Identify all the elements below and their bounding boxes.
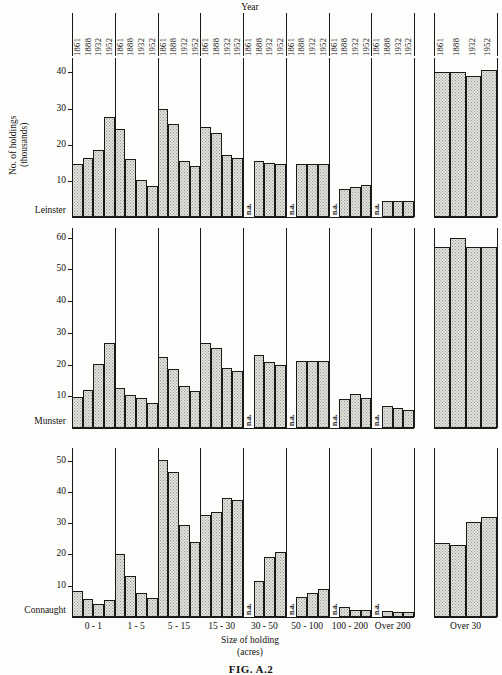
bar — [222, 498, 233, 617]
bar — [222, 368, 233, 428]
bar — [200, 515, 211, 617]
year-label: 1952 — [404, 14, 413, 56]
year-label: 1861 — [330, 14, 339, 56]
category-label-over30: Over 30 — [422, 621, 502, 631]
y-tick-label-munster-40: 40 — [42, 295, 66, 305]
bar — [104, 600, 115, 617]
bar — [83, 390, 94, 428]
bar — [147, 186, 158, 217]
year-label: 1888 — [84, 14, 93, 56]
bar-over30 — [434, 543, 450, 617]
bar — [147, 598, 158, 617]
y-tick-label-munster-30: 30 — [42, 327, 66, 337]
y-tick-label-connaught-40: 40 — [42, 486, 66, 496]
na-label: n.a. — [244, 591, 253, 615]
year-label: 1952 — [362, 14, 371, 56]
bar — [307, 593, 318, 617]
main-right-edge-0 — [414, 58, 415, 217]
bar — [264, 163, 275, 217]
bar — [275, 164, 286, 217]
bar — [72, 164, 83, 217]
region-label-leinster: Leinster — [6, 205, 66, 215]
year-label: 1888 — [126, 14, 135, 56]
category-label-7: Over 200 — [361, 621, 424, 631]
y-tick-label-connaught-30: 30 — [42, 517, 66, 527]
y-tick-label-leinster-10: 10 — [42, 175, 66, 185]
bar — [232, 500, 243, 617]
bar — [136, 398, 147, 428]
year-label: 1861 — [287, 14, 296, 56]
bar — [158, 460, 169, 617]
bar-over30 — [466, 76, 482, 217]
category-separator-1-5 — [286, 228, 287, 428]
year-label: 1932 — [137, 14, 146, 56]
y-tick-label-leinster-20: 20 — [42, 139, 66, 149]
bar — [200, 127, 211, 217]
bar — [361, 398, 372, 428]
bar — [136, 593, 147, 617]
na-label: n.a. — [287, 591, 296, 615]
bar — [104, 343, 115, 428]
bar — [382, 611, 393, 617]
category-separator-1-6 — [329, 228, 330, 428]
bar — [275, 552, 286, 617]
year-label: 1861 — [201, 14, 210, 56]
bar — [296, 164, 307, 217]
bar-over30 — [450, 72, 466, 217]
over30-right-edge-1 — [497, 228, 498, 428]
bar — [339, 607, 350, 617]
y-tick-label-connaught-20: 20 — [42, 548, 66, 558]
na-label: n.a. — [287, 191, 296, 215]
year-label: 1888 — [255, 14, 264, 56]
year-label: 1952 — [105, 14, 114, 56]
year-label: 1888 — [212, 14, 221, 56]
bar — [350, 394, 361, 428]
bar — [403, 201, 414, 217]
bar — [83, 158, 94, 217]
year-group-rule-4 — [243, 13, 244, 56]
year-label: 1952 — [276, 14, 285, 56]
bar — [136, 180, 147, 217]
y-tick-leinster-30 — [68, 109, 72, 110]
bar — [350, 187, 361, 217]
year-label-over30: 1932 — [468, 14, 477, 56]
bar — [147, 403, 158, 428]
region-label-munster: Munster — [6, 416, 66, 426]
bar — [254, 161, 265, 217]
bar — [179, 525, 190, 617]
y-tick-connaught-20 — [68, 554, 72, 555]
bar — [254, 581, 265, 617]
year-group-rule-7 — [371, 13, 372, 56]
year-label: 1861 — [372, 14, 381, 56]
bar-over30 — [481, 517, 497, 617]
bar-over30 — [466, 522, 482, 617]
year-label: 1932 — [265, 14, 274, 56]
bar-over30 — [450, 545, 466, 617]
bar — [339, 399, 350, 428]
y-tick-label-connaught-10: 10 — [42, 580, 66, 590]
year-label-over30: 1952 — [483, 14, 492, 56]
y-tick-leinster-20 — [68, 145, 72, 146]
bar — [403, 410, 414, 428]
bar — [361, 185, 372, 217]
baseline-main-leinster — [72, 217, 414, 218]
year-group-rule-over30-r — [497, 13, 498, 56]
bar — [232, 371, 243, 428]
bar — [190, 391, 201, 428]
bar — [350, 610, 361, 617]
na-label: n.a. — [287, 402, 296, 426]
na-label: n.a. — [330, 402, 339, 426]
bar-over30 — [450, 238, 466, 428]
bar — [168, 369, 179, 428]
bar — [211, 348, 222, 428]
year-label: 1952 — [191, 14, 200, 56]
bar — [104, 117, 115, 217]
y-tick-label-munster-50: 50 — [42, 263, 66, 273]
y-tick-connaught-10 — [68, 586, 72, 587]
year-label: 1952 — [233, 14, 242, 56]
bar — [168, 472, 179, 617]
bar-over30 — [434, 72, 450, 217]
bar — [190, 166, 201, 217]
bar — [361, 610, 372, 617]
year-label: 1952 — [148, 14, 157, 56]
